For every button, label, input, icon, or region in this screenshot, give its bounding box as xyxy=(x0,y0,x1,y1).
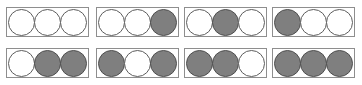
disc-filled-icon[interactable] xyxy=(150,9,177,36)
disc-empty-icon[interactable] xyxy=(124,9,151,36)
disc-empty-icon[interactable] xyxy=(238,50,265,77)
disc-empty-icon[interactable] xyxy=(8,50,35,77)
three-cell-binary-state-grid xyxy=(0,0,362,85)
disc-track xyxy=(7,8,88,36)
state-box-6[interactable] xyxy=(96,48,179,78)
disc-filled-icon[interactable] xyxy=(60,50,87,77)
disc-empty-icon[interactable] xyxy=(326,9,353,36)
state-box-8[interactable] xyxy=(272,48,355,78)
disc-filled-icon[interactable] xyxy=(274,9,301,36)
state-box-1[interactable] xyxy=(6,7,89,37)
disc-empty-icon[interactable] xyxy=(124,50,151,77)
state-box-2[interactable] xyxy=(96,7,179,37)
disc-empty-icon[interactable] xyxy=(300,9,327,36)
disc-track xyxy=(97,8,178,36)
disc-filled-icon[interactable] xyxy=(186,50,213,77)
disc-track xyxy=(185,8,266,36)
disc-filled-icon[interactable] xyxy=(326,50,353,77)
disc-empty-icon[interactable] xyxy=(8,9,35,36)
disc-track xyxy=(273,49,354,77)
disc-track xyxy=(7,49,88,77)
disc-empty-icon[interactable] xyxy=(98,9,125,36)
disc-filled-icon[interactable] xyxy=(34,50,61,77)
disc-track xyxy=(97,49,178,77)
disc-filled-icon[interactable] xyxy=(150,50,177,77)
disc-empty-icon[interactable] xyxy=(186,9,213,36)
state-box-4[interactable] xyxy=(272,7,355,37)
disc-filled-icon[interactable] xyxy=(98,50,125,77)
disc-empty-icon[interactable] xyxy=(34,9,61,36)
box-row-bottom xyxy=(0,48,362,78)
disc-filled-icon[interactable] xyxy=(300,50,327,77)
state-box-7[interactable] xyxy=(184,48,267,78)
disc-filled-icon[interactable] xyxy=(212,50,239,77)
disc-filled-icon[interactable] xyxy=(212,9,239,36)
disc-empty-icon[interactable] xyxy=(238,9,265,36)
disc-empty-icon[interactable] xyxy=(60,9,87,36)
disc-track xyxy=(273,8,354,36)
state-box-5[interactable] xyxy=(6,48,89,78)
state-box-3[interactable] xyxy=(184,7,267,37)
disc-track xyxy=(185,49,266,77)
box-row-top xyxy=(0,7,362,37)
disc-filled-icon[interactable] xyxy=(274,50,301,77)
